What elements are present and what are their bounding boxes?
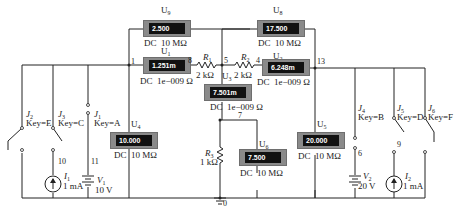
- switch-j2-key[interactable]: Key=E: [26, 119, 52, 128]
- resistor-r1-label: R1: [203, 53, 212, 65]
- meter-u1-display: 1.251m: [149, 60, 185, 71]
- meter-u8-label: U8: [273, 6, 283, 18]
- source-i1-value: 1 mA: [63, 182, 83, 191]
- meter-u3[interactable]: 7.501m: [204, 84, 252, 101]
- resistor-r3-value: 1 kΩ: [200, 158, 218, 167]
- node-0: 0: [223, 200, 227, 208]
- switch-j4-key[interactable]: Key=B: [358, 113, 384, 122]
- meter-u3-label: U3: [222, 72, 232, 84]
- node-11: 11: [91, 158, 99, 166]
- meter-u5[interactable]: 20.000: [297, 132, 345, 149]
- meter-u4[interactable]: 10.000: [110, 132, 158, 149]
- meter-u1-spec: DC 1e−009 Ω: [140, 77, 193, 86]
- meter-u9-display: 2.500: [149, 23, 185, 34]
- meter-u6[interactable]: 7.500: [239, 149, 287, 166]
- switch-j6-key[interactable]: Key=F: [428, 113, 453, 122]
- meter-u4-spec: DC 10 MΩ: [114, 151, 157, 160]
- meter-u4-display: 10.000: [116, 135, 152, 146]
- node-10: 10: [58, 158, 66, 166]
- meter-u8[interactable]: 17.500: [257, 20, 305, 37]
- meter-u3-display: 7.501m: [210, 87, 246, 98]
- meter-u1[interactable]: 1.251m: [143, 57, 191, 74]
- node-1: 1: [131, 58, 135, 66]
- node-7: 7: [238, 112, 242, 120]
- node-6: 6: [358, 150, 362, 158]
- meter-u6-display: 7.500: [245, 152, 281, 163]
- meter-u4-label: U4: [131, 120, 141, 132]
- meter-u9-label: U9: [161, 6, 171, 18]
- node-4: 4: [256, 57, 260, 65]
- meter-u6-spec: DC 10 MΩ: [240, 169, 283, 178]
- switch-j1-key[interactable]: Key=A: [94, 119, 121, 128]
- meter-u8-display: 17.500: [263, 23, 299, 34]
- meter-u8-spec: DC 10 MΩ: [258, 39, 301, 48]
- meter-u2[interactable]: 6.248m: [262, 59, 310, 76]
- source-v1-value: 10 V: [95, 186, 113, 195]
- meter-u2-spec: DC 1e−009 Ω: [257, 78, 310, 87]
- meter-u5-label: U5: [317, 120, 327, 132]
- source-v2-value: 20 V: [358, 182, 376, 191]
- node-9: 9: [397, 141, 401, 149]
- meter-u2-display: 6.248m: [268, 62, 304, 73]
- node-5: 5: [224, 57, 228, 65]
- meter-u5-display: 20.000: [303, 135, 339, 146]
- source-i2-value: 1 mA: [403, 182, 423, 191]
- meter-u9[interactable]: 2.500: [143, 20, 191, 37]
- meter-u3-spec: DC 1e−009 Ω: [210, 103, 263, 112]
- node-13: 13: [317, 58, 325, 66]
- resistor-r2-value: 2 kΩ: [234, 71, 252, 80]
- node-8: 8: [188, 57, 192, 65]
- resistor-r2-label: R2: [241, 53, 250, 65]
- resistor-r1-value: 2 kΩ: [196, 71, 214, 80]
- switch-j5-key[interactable]: Key=D: [397, 113, 424, 122]
- switch-j3-key[interactable]: Key=C: [58, 119, 84, 128]
- meter-u5-spec: DC 10 MΩ: [298, 152, 341, 161]
